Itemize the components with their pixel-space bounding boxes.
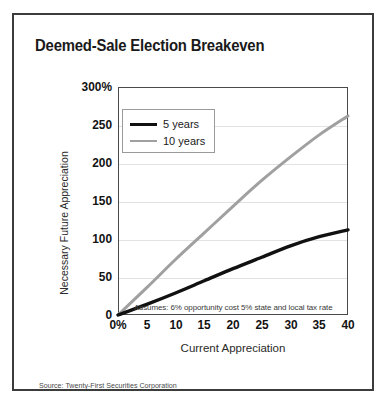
chart-title: Deemed-Sale Election Breakeven <box>35 37 264 55</box>
legend-item-5-years: 5 years <box>130 116 199 132</box>
plot-area: 5 years 10 years Assumes: 6% opportunity… <box>118 87 348 315</box>
x-axis-tick-label: 30 <box>284 318 297 332</box>
legend-label-10-years: 10 years <box>163 135 205 147</box>
legend-swatch-10-years <box>130 140 157 142</box>
chart-annotation: Assumes: 6% opportunity cost 5% state an… <box>134 303 333 312</box>
x-axis-tick-label: 25 <box>255 318 268 332</box>
x-axis-tick-group: 0%510152025303540 <box>118 318 348 336</box>
x-axis-tick-label: 20 <box>226 318 239 332</box>
source-note: Source: Twenty-First Securities Corporat… <box>39 381 177 390</box>
figure-border: Deemed-Sale Election Breakeven Necessary… <box>12 13 374 391</box>
y-axis-tick-label: 50 <box>46 270 113 284</box>
x-axis-tick-label: 15 <box>198 318 211 332</box>
legend-item-10-years: 10 years <box>130 133 205 149</box>
x-axis-tick-label: 5 <box>143 318 150 332</box>
y-axis-tick-label: 300% <box>46 80 113 94</box>
y-axis-tick-label: 200 <box>46 156 113 170</box>
legend-label-5-years: 5 years <box>163 118 199 130</box>
x-axis-label: Current Appreciation <box>118 342 348 354</box>
y-axis-tick-label: 0 <box>46 308 113 322</box>
x-axis-tick-label: 35 <box>313 318 326 332</box>
x-axis-tick-label: 40 <box>341 318 354 332</box>
y-axis-tick-label: 150 <box>46 194 113 208</box>
x-axis-tick-label: 10 <box>169 318 182 332</box>
y-axis-tick-label: 100 <box>46 232 113 246</box>
y-axis-tick-group: Necessary Future Appreciation 300%250200… <box>40 87 112 315</box>
legend-swatch-5-years <box>130 123 157 126</box>
legend-box: 5 years 10 years <box>122 109 215 153</box>
x-axis-tick-label: 0% <box>109 318 126 332</box>
y-axis-tick-label: 250 <box>46 118 113 132</box>
